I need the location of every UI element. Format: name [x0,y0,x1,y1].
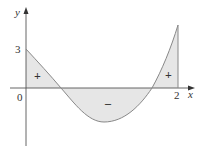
y-axis-label: y [14,6,20,18]
y-axis-arrow-icon [24,7,29,14]
negative-sign: – [104,96,112,110]
x-axis-label: x [187,88,193,100]
positive-sign-right: + [165,68,172,82]
y-value-label: 3 [15,43,21,55]
x-value-label: 2 [174,89,180,101]
signed-area-diagram: y x 0 3 2 + – + [0,0,204,153]
origin-label: 0 [17,91,23,103]
positive-sign-left: + [34,69,41,83]
